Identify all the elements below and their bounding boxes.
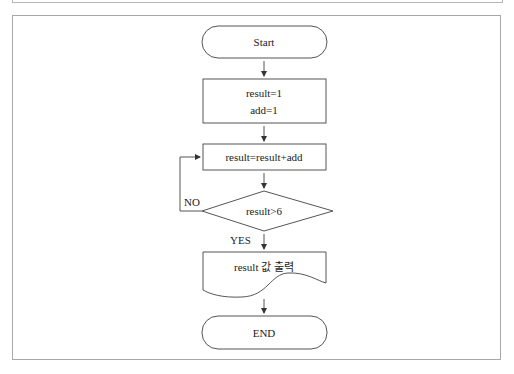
decision-label: result>6 <box>246 206 282 217</box>
init-line-1: result=1 <box>246 88 282 99</box>
yes-branch-label: YES <box>230 235 251 246</box>
output-document-shape <box>203 252 326 297</box>
init-line-2: add=1 <box>250 105 278 116</box>
end-label: END <box>253 328 276 339</box>
output-label: result 값 출력 <box>234 262 294 273</box>
accumulate-label: result=result+add <box>225 152 302 163</box>
flowchart-canvas <box>0 0 514 374</box>
start-label: Start <box>254 37 275 48</box>
no-branch-label: NO <box>184 197 200 208</box>
